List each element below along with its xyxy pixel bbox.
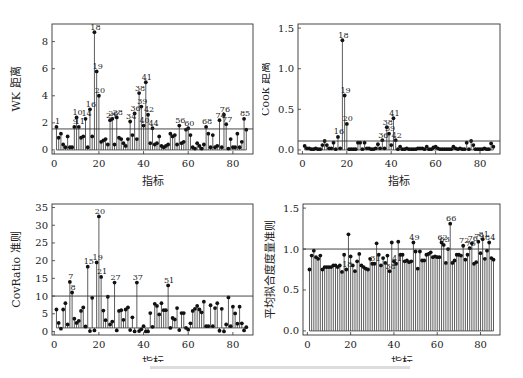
data-point [213, 306, 217, 310]
y-tick-label: 6 [42, 63, 48, 74]
data-point [215, 301, 219, 305]
data-point [244, 128, 248, 132]
point-label: 20 [95, 86, 105, 95]
data-point [77, 319, 81, 323]
x-tick-label: 60 [182, 339, 195, 350]
data-point [195, 304, 199, 308]
point-label: 41 [389, 109, 399, 118]
data-point [242, 328, 246, 332]
point-label: 8 [71, 283, 76, 292]
data-point [142, 324, 146, 328]
data-point [227, 147, 231, 151]
y-tick-label: 0.5 [278, 104, 294, 115]
y-tick-label: 5 [42, 308, 48, 319]
x-axis-label: 指标 [388, 174, 410, 188]
y-tick-label: 20 [35, 255, 48, 266]
data-point [381, 256, 385, 260]
y-tick-label: 10 [35, 291, 48, 302]
y-tick-label: 0.0 [278, 144, 294, 155]
data-point [119, 308, 123, 312]
data-point [334, 147, 338, 151]
data-point [325, 143, 329, 147]
data-point [189, 133, 193, 137]
data-point [57, 321, 61, 325]
data-point [220, 307, 224, 311]
y-tick-label: 35 [35, 202, 48, 213]
y-tick-label: 0.5 [283, 284, 299, 295]
x-tick-label: 80 [474, 339, 487, 350]
data-point [84, 325, 88, 329]
x-tick-label: 0 [51, 158, 57, 169]
covratio-chart: 781519202127375102040608005101520253035指… [0, 190, 262, 362]
data-point [206, 324, 210, 328]
data-point [474, 260, 478, 264]
data-point [349, 255, 353, 259]
data-point [459, 254, 463, 258]
data-point [240, 321, 244, 325]
point-label: 42 [392, 131, 402, 140]
data-point [148, 311, 152, 315]
point-label: 1 [55, 117, 60, 126]
point-label: 21 [97, 267, 107, 276]
point-label: 76 [220, 105, 230, 114]
point-label: 16 [86, 100, 96, 109]
data-point [206, 132, 210, 136]
data-point [238, 305, 242, 309]
point-label: 34 [126, 112, 136, 121]
point-label: 18 [338, 31, 348, 40]
point-label: 51 [164, 276, 174, 285]
data-point [131, 315, 135, 319]
data-point [366, 268, 370, 272]
data-point [157, 313, 161, 317]
data-point [61, 308, 65, 312]
data-point [104, 137, 108, 141]
y-tick-label: 1.0 [278, 63, 294, 74]
data-point [353, 269, 357, 273]
data-point [104, 318, 108, 322]
data-point [64, 145, 68, 149]
point-label: 44 [148, 119, 158, 128]
point-label: 31 [370, 254, 380, 263]
data-point [81, 305, 85, 309]
point-label: 11 [75, 117, 85, 126]
data-point [182, 311, 186, 315]
y-tick-label: 0.0 [283, 325, 299, 336]
data-point [489, 142, 493, 146]
y-axis-label: 平均拟合度度量准则 [263, 220, 277, 319]
point-label: 37 [133, 273, 143, 282]
x-tick-label: 80 [474, 158, 487, 169]
data-point [318, 254, 322, 258]
data-point [202, 143, 206, 147]
data-point [211, 324, 215, 328]
data-point [224, 322, 228, 326]
data-point [59, 132, 63, 136]
data-point [128, 328, 132, 332]
data-point [422, 259, 426, 263]
data-point [175, 143, 179, 147]
data-point [375, 241, 379, 245]
point-label: 63 [440, 235, 450, 244]
covratio-plot: 781519202127375102040608005101520253035指… [0, 190, 262, 362]
data-point [59, 327, 63, 331]
data-point [321, 143, 325, 147]
y-axis-label: Cook 距离 [262, 62, 272, 116]
x-tick-label: 20 [340, 158, 353, 169]
point-label: 49 [409, 233, 419, 242]
data-point [101, 309, 105, 313]
data-point [418, 250, 422, 254]
data-point [374, 146, 378, 150]
data-point [164, 308, 168, 312]
data-point [355, 259, 359, 263]
data-point [357, 252, 361, 256]
data-point [220, 145, 224, 149]
data-point [229, 137, 233, 141]
x-tick-label: 40 [385, 158, 398, 169]
data-point [487, 147, 491, 151]
average-fit-chart: 18313841496263667275767981840204060800.0… [262, 190, 523, 362]
data-point [318, 147, 322, 151]
data-point [124, 144, 128, 148]
data-point [416, 267, 420, 271]
y-tick-label: 1.0 [283, 244, 299, 255]
point-label: 60 [184, 119, 194, 128]
data-point [244, 325, 248, 329]
